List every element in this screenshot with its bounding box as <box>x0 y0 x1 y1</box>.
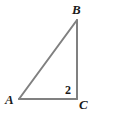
vertex-label-c: C <box>79 98 88 111</box>
angle-measure-label: 2 <box>65 84 71 96</box>
vertex-label-a: A <box>5 93 14 106</box>
right-triangle-figure: A B C 2 <box>0 0 125 117</box>
triangle-drawing <box>0 0 125 117</box>
vertex-label-b: B <box>72 3 81 16</box>
